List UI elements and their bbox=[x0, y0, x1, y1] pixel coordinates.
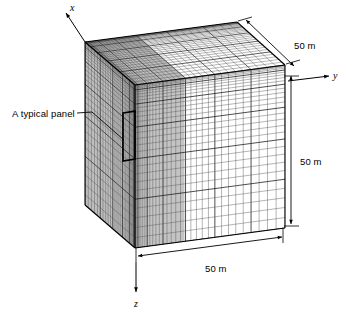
dimension-label-depth: 50 m bbox=[294, 41, 316, 51]
figure-canvas: x y z A typical panel 50 m 50 m 50 m bbox=[0, 0, 350, 316]
dimension-label-width: 50 m bbox=[205, 264, 227, 274]
axis-label-x: x bbox=[70, 3, 74, 13]
typical-panel-label: A typical panel bbox=[12, 109, 75, 119]
axis-label-y: y bbox=[333, 71, 337, 81]
dimension-label-height: 50 m bbox=[300, 157, 322, 167]
axis-label-z: z bbox=[134, 299, 138, 309]
